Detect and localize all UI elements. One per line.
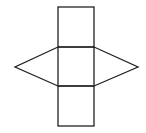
bottom-rectangle bbox=[58, 86, 94, 126]
right-triangle bbox=[94, 47, 138, 86]
left-triangle bbox=[15, 47, 58, 86]
middle-rectangle bbox=[58, 47, 94, 86]
prism-net-diagram bbox=[0, 0, 146, 133]
top-rectangle bbox=[58, 7, 94, 47]
